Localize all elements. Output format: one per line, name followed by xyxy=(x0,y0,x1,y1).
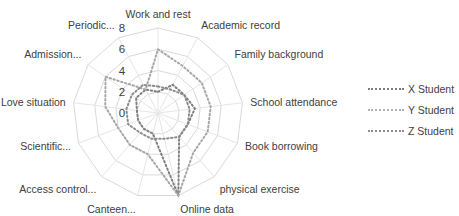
tick-label: 2 xyxy=(119,86,125,98)
category-label: Love situation xyxy=(1,96,66,108)
legend: X Student Y Student Z Student xyxy=(368,78,454,141)
category-label: physical exercise xyxy=(220,183,300,195)
category-label: Admission... xyxy=(24,48,81,60)
tick-label: 8 xyxy=(119,22,125,34)
legend-swatch-y-student xyxy=(368,109,404,111)
category-label: Family background xyxy=(235,48,324,60)
spoke xyxy=(158,38,198,113)
category-label: Work and rest xyxy=(125,8,190,20)
legend-label: Y Student xyxy=(408,104,454,116)
tick-label: 4 xyxy=(119,65,126,77)
legend-item-x-student: X Student xyxy=(368,78,454,99)
category-label: Access control... xyxy=(19,183,96,195)
legend-swatch-x-student xyxy=(368,88,404,90)
category-label: Academic record xyxy=(201,19,280,31)
radar-spokes xyxy=(74,28,243,196)
tick-label: 6 xyxy=(119,43,125,55)
legend-item-z-student: Z Student xyxy=(368,120,454,141)
category-label: Online data xyxy=(180,203,234,215)
category-label: Periodic... xyxy=(68,19,115,31)
category-label: School attendance xyxy=(250,96,337,108)
spoke xyxy=(158,113,237,143)
legend-label: X Student xyxy=(408,83,454,95)
legend-swatch-z-student xyxy=(368,130,404,132)
legend-label: Z Student xyxy=(408,125,454,137)
category-label: Canteen... xyxy=(87,203,135,215)
category-label: Scientific... xyxy=(20,140,71,152)
tick-label: 0 xyxy=(119,107,125,119)
legend-item-y-student: Y Student xyxy=(368,99,454,120)
category-label: Book borrowing xyxy=(245,140,318,152)
